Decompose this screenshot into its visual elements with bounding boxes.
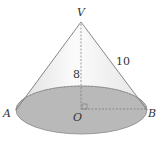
cone-diagram: V A B O 8 10 — [0, 0, 163, 145]
slant-label: 10 — [116, 55, 130, 68]
height-label: 8 — [73, 68, 80, 81]
label-A: A — [2, 107, 11, 120]
label-V: V — [77, 6, 86, 19]
label-O: O — [73, 111, 82, 124]
cone-figure: V A B O 8 10 — [0, 0, 163, 145]
label-B: B — [147, 107, 156, 120]
